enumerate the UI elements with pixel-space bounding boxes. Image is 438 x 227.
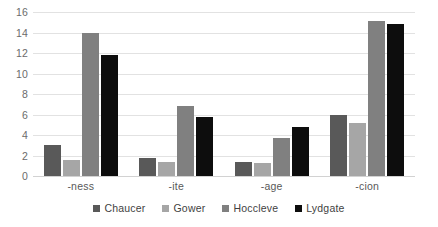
legend-item-chaucer[interactable]: Chaucer	[93, 203, 145, 214]
legend-swatch-icon	[162, 205, 169, 212]
y-axis-tick-label: 2	[0, 150, 28, 161]
bar-gower-age	[254, 163, 271, 176]
y-axis-tick-label: 14	[0, 27, 28, 38]
bar-group	[320, 12, 416, 176]
bar-group	[33, 12, 129, 176]
y-axis-tick-label: 10	[0, 68, 28, 79]
x-axis: -ness-ite-age-cion	[33, 180, 415, 192]
legend-item-lydgate[interactable]: Lydgate	[295, 203, 344, 214]
legend-item-label: Hoccleve	[233, 203, 278, 214]
bar-chaucer-ite	[139, 158, 156, 176]
legend-item-label: Lydgate	[306, 203, 344, 214]
y-axis: 1614121086420	[0, 0, 28, 227]
bar-hoccleve-age	[273, 138, 290, 176]
bar-gower-ite	[158, 162, 175, 176]
y-axis-tick-label: 8	[0, 89, 28, 100]
bar-lydgate-ness	[101, 55, 118, 176]
y-axis-tick-label: 0	[0, 171, 28, 182]
bar-hoccleve-ite	[177, 106, 194, 176]
legend-swatch-icon	[93, 205, 100, 212]
legend-swatch-icon	[222, 205, 229, 212]
bar-hoccleve-cion	[368, 21, 385, 176]
y-axis-tick-label: 4	[0, 130, 28, 141]
x-axis-tick-label: -ness	[33, 180, 129, 192]
bar-gower-cion	[349, 123, 366, 176]
bar-gower-ness	[63, 160, 80, 176]
legend-item-hoccleve[interactable]: Hoccleve	[222, 203, 278, 214]
chart-legend: ChaucerGowerHoccleveLydgate	[0, 203, 438, 214]
legend-item-gower[interactable]: Gower	[162, 203, 205, 214]
bar-lydgate-ite	[196, 117, 213, 176]
bar-chaucer-age	[235, 162, 252, 176]
bar-chaucer-cion	[330, 115, 347, 177]
y-axis-tick-label: 16	[0, 7, 28, 18]
bar-chart: 1614121086420 -ness-ite-age-cion Chaucer…	[0, 0, 438, 227]
bar-group	[129, 12, 225, 176]
x-axis-tick-label: -cion	[320, 180, 416, 192]
legend-item-label: Gower	[173, 203, 205, 214]
bar-lydgate-age	[292, 127, 309, 176]
x-axis-tick-label: -age	[224, 180, 320, 192]
legend-swatch-icon	[295, 205, 302, 212]
bar-hoccleve-ness	[82, 33, 99, 177]
x-axis-tick-label: -ite	[129, 180, 225, 192]
y-axis-tick-label: 12	[0, 48, 28, 59]
bar-lydgate-cion	[387, 24, 404, 176]
legend-item-label: Chaucer	[104, 203, 145, 214]
bar-group	[224, 12, 320, 176]
gridline	[33, 176, 415, 177]
y-axis-tick-label: 6	[0, 109, 28, 120]
bar-chaucer-ness	[44, 145, 61, 176]
bars-layer	[33, 12, 415, 176]
